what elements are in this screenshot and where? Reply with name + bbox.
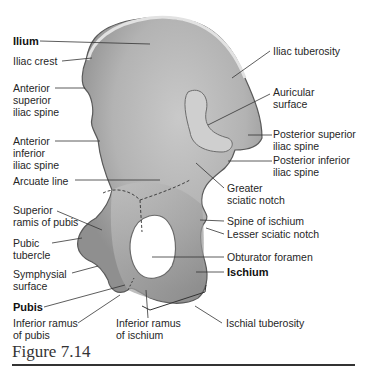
label-ischium: Ischium	[227, 266, 269, 278]
obturator-foramen-shape	[130, 215, 175, 278]
label-inferior-ramus-of-ischium: Inferior ramus of ischium	[116, 317, 181, 341]
label-spine-of-ischium: Spine of ischium	[227, 215, 304, 227]
label-greater-sciatic-notch: Greater sciatic notch	[227, 182, 285, 206]
label-symphysial-surface: Symphysial surface	[13, 268, 67, 292]
label-iliac-crest: Iliac crest	[13, 55, 57, 67]
label-posterior-superior-iliac-spine: Posterior superior iliac spine	[273, 128, 356, 152]
label-iliac-tuberosity: Iliac tuberosity	[273, 45, 340, 57]
label-ischial-tuberosity: Ischial tuberosity	[226, 317, 304, 329]
label-pubis: Pubis	[13, 301, 43, 313]
hip-bone-figure: Ilium Iliac crest Anterior superior ilia…	[0, 0, 365, 345]
label-superior-ramis-of-pubis: Superior ramis of pubis	[13, 204, 78, 228]
label-obturator-foramen: Obturator foramen	[227, 251, 313, 263]
label-inferior-ramus-of-pubis: Inferior ramus of pubis	[13, 317, 78, 341]
caption-rule	[12, 364, 355, 366]
label-anterior-superior-iliac-spine: Anterior superior iliac spine	[13, 82, 59, 118]
figure-caption: Figure 7.14	[12, 342, 90, 362]
label-anterior-inferior-iliac-spine: Anterior inferior iliac spine	[13, 135, 59, 171]
label-lesser-sciatic-notch: Lesser sciatic notch	[227, 228, 319, 240]
label-pubic-tubercle: Pubic tubercle	[13, 237, 50, 261]
label-auricular-surface: Auricular surface	[273, 86, 314, 110]
label-arcuate-line: Arcuate line	[13, 175, 68, 187]
label-ilium: Ilium	[13, 35, 39, 47]
label-posterior-inferior-iliac-spine: Posterior inferior iliac spine	[273, 154, 350, 178]
